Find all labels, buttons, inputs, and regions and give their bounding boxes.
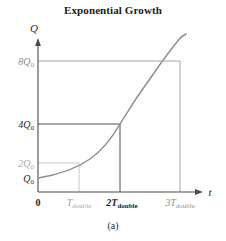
- y-tick-label-4q0: 4Q0: [18, 119, 34, 132]
- y-tick-label-8q0: 8Q0: [18, 56, 34, 69]
- figure-caption: (a): [0, 220, 226, 231]
- x-axis-arrow-icon: [195, 189, 203, 195]
- x-axis-label: t: [208, 186, 212, 198]
- exponential-growth-figure: Exponential Growth Q t 8Q0 4Q0 2Q0 Q0: [0, 0, 226, 241]
- x-tick-label-origin: 0: [36, 197, 41, 208]
- exponential-growth-curve: [38, 34, 186, 178]
- y-axis-label: Q: [30, 22, 38, 34]
- y-tick-label-2q0: 2Q0: [18, 158, 34, 171]
- x-tick-label-2t-double: 2Tdouble: [105, 197, 137, 210]
- x-tick-label-t-double: Tdouble: [67, 197, 92, 210]
- exponential-growth-plot: Q t 8Q0 4Q0 2Q0 Q0 0 Tdouble 2Tdouble 3T…: [0, 0, 226, 241]
- x-tick-label-3t-double: 3Tdouble: [164, 197, 195, 210]
- y-axis-arrow-icon: [35, 38, 41, 46]
- y-tick-label-q0: Q0: [23, 173, 34, 186]
